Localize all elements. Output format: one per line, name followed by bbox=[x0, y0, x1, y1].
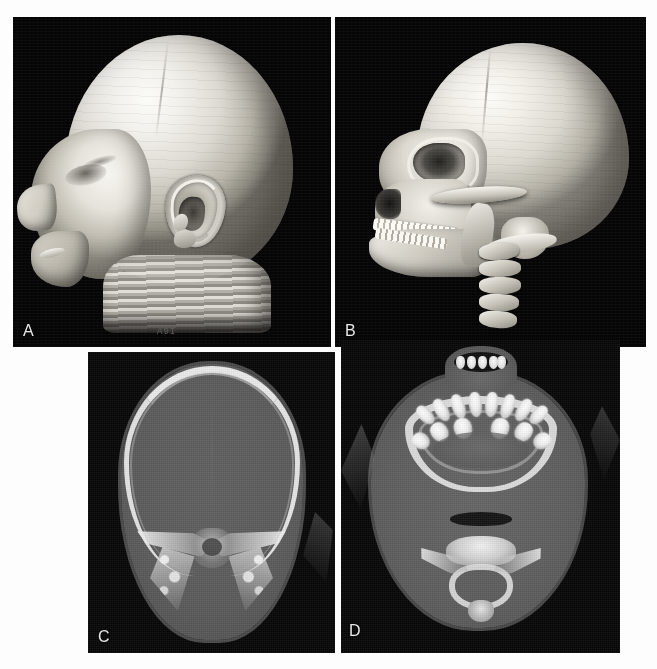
incisor-5 bbox=[497, 356, 506, 369]
spinous-process bbox=[468, 600, 494, 622]
orientation-marker-a: A9I bbox=[157, 328, 176, 337]
panel-b-3d-bone-render[interactable]: B bbox=[335, 17, 646, 347]
radiology-figure: A A9I B bbox=[0, 0, 657, 669]
panel-label-a: A bbox=[23, 323, 34, 339]
panel-label-d: D bbox=[349, 623, 361, 639]
panel-d-axial-ct-maxilla[interactable]: D bbox=[341, 340, 620, 653]
vertebra-5 bbox=[478, 310, 517, 330]
panel-label-c: C bbox=[98, 629, 110, 645]
vertebra-2 bbox=[479, 259, 522, 277]
nose-profile bbox=[15, 183, 60, 233]
vertebra-4 bbox=[479, 293, 520, 311]
streak-artifact-c bbox=[303, 512, 333, 582]
basiocciput-marrow bbox=[202, 538, 222, 556]
hard-palate bbox=[433, 432, 529, 468]
panel-a-3d-skin-render[interactable]: A A9I bbox=[13, 17, 331, 347]
vertebra-3 bbox=[479, 277, 521, 294]
streak-artifact-d-right bbox=[590, 406, 620, 480]
cervical-vertebra bbox=[412, 536, 550, 624]
panel-c-axial-ct-skull-base[interactable]: C bbox=[88, 352, 335, 653]
ear-lobule bbox=[173, 229, 197, 249]
incisor-row bbox=[456, 356, 506, 370]
cervical-spine bbox=[475, 243, 527, 339]
incisor-3 bbox=[478, 356, 487, 369]
oropharyngeal-airway bbox=[450, 512, 512, 526]
incisor-2 bbox=[467, 356, 476, 369]
incisor-1 bbox=[456, 356, 465, 369]
nasal-aperture bbox=[375, 189, 401, 219]
interhemispheric-falx bbox=[211, 376, 212, 526]
panel-label-b: B bbox=[345, 323, 356, 339]
chin-region bbox=[31, 231, 89, 287]
neck-fade-out bbox=[103, 313, 271, 341]
vertebra-1 bbox=[478, 242, 519, 262]
